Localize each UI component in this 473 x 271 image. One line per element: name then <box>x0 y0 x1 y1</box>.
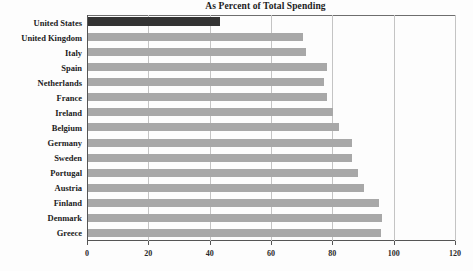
x-tick-label-40: 40 <box>206 249 214 258</box>
bar-row <box>87 120 455 135</box>
category-label-sweden: Sweden <box>54 153 82 163</box>
category-label-austria: Austria <box>55 183 82 193</box>
bar-denmark <box>88 214 382 222</box>
bar-rows <box>87 15 455 241</box>
bar-row <box>87 211 455 226</box>
bar-france <box>88 93 327 101</box>
bar-united-states <box>88 17 220 26</box>
bar-belgium <box>88 123 339 131</box>
category-label-netherlands: Netherlands <box>38 78 82 88</box>
bar-sweden <box>88 154 352 162</box>
category-label-portugal: Portugal <box>50 168 82 178</box>
category-label-ireland: Ireland <box>55 108 82 118</box>
x-tick-mark-60 <box>271 241 272 245</box>
x-tick-label-0: 0 <box>85 249 89 258</box>
bar-row <box>87 30 455 45</box>
x-tick-label-80: 80 <box>328 249 336 258</box>
bar-portugal <box>88 169 358 177</box>
x-tick-mark-20 <box>148 241 149 245</box>
bar-row <box>87 45 455 60</box>
category-label-spain: Spain <box>61 63 82 73</box>
x-tick-mark-80 <box>332 241 333 245</box>
bar-united-kingdom <box>88 33 303 41</box>
category-label-france: France <box>57 93 83 103</box>
bar-netherlands <box>88 78 324 86</box>
category-label-united-states: United States <box>34 18 82 28</box>
bar-row <box>87 151 455 166</box>
bar-row <box>87 15 455 30</box>
bar-row <box>87 105 455 120</box>
plot-area: 020406080100120 <box>87 15 455 241</box>
category-label-italy: Italy <box>65 48 82 58</box>
bar-row <box>87 60 455 75</box>
category-label-belgium: Belgium <box>52 123 82 133</box>
bar-row <box>87 90 455 105</box>
bar-row <box>87 136 455 151</box>
category-label-germany: Germany <box>48 138 82 148</box>
bar-row <box>87 75 455 90</box>
bar-ireland <box>88 108 333 116</box>
bar-italy <box>88 48 306 56</box>
chart-title: As Percent of Total Spending <box>0 1 473 11</box>
bar-chart: As Percent of Total Spending 02040608010… <box>0 0 473 271</box>
category-label-united-kingdom: United Kingdom <box>21 33 82 43</box>
gridline-120 <box>455 15 456 241</box>
category-label-greece: Greece <box>57 228 82 238</box>
category-label-finland: Finland <box>54 198 82 208</box>
bar-greece <box>88 229 381 237</box>
x-tick-label-100: 100 <box>388 249 400 258</box>
bar-austria <box>88 184 364 192</box>
x-tick-label-20: 20 <box>144 249 152 258</box>
bar-spain <box>88 63 327 71</box>
bar-row <box>87 226 455 241</box>
x-tick-mark-0 <box>87 241 88 245</box>
bar-row <box>87 166 455 181</box>
x-tick-mark-100 <box>394 241 395 245</box>
x-tick-mark-40 <box>210 241 211 245</box>
x-tick-label-60: 60 <box>267 249 275 258</box>
x-tick-label-120: 120 <box>449 249 461 258</box>
x-tick-mark-120 <box>455 241 456 245</box>
bar-row <box>87 196 455 211</box>
bar-finland <box>88 199 379 207</box>
category-label-denmark: Denmark <box>48 213 82 223</box>
bar-germany <box>88 139 352 147</box>
bar-row <box>87 181 455 196</box>
